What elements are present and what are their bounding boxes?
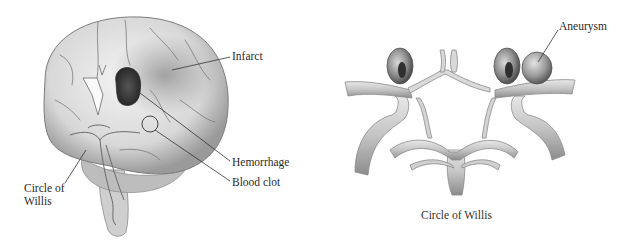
label-circle-of-willis-left-line1: Circle of (24, 182, 65, 195)
label-blood-clot: Blood clot (232, 176, 280, 189)
medical-diagram: Infarct Hemorrhage Blood clot Circle of … (0, 0, 631, 242)
brain-illustration (0, 0, 631, 242)
label-aneurysm: Aneurysm (559, 20, 607, 33)
label-hemorrhage: Hemorrhage (232, 156, 289, 169)
label-infarct: Infarct (232, 50, 263, 63)
caption-circle-of-willis: Circle of Willis (421, 209, 492, 221)
label-circle-of-willis-left-line2: Willis (24, 195, 52, 208)
